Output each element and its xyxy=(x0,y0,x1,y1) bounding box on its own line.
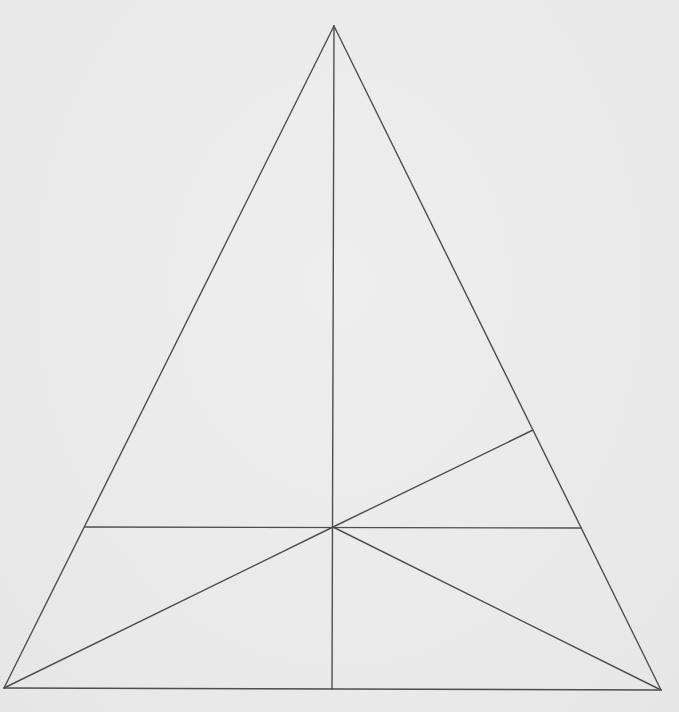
right-side-line xyxy=(334,26,661,690)
center-to-right-side-line xyxy=(333,430,533,527)
center-to-bottom-left-line xyxy=(4,527,333,688)
left-side-line xyxy=(4,26,334,688)
diagram-canvas xyxy=(0,0,679,712)
vertical-median-line xyxy=(332,26,334,689)
triangle-figure xyxy=(0,0,679,712)
center-to-bottom-right-line xyxy=(333,527,661,690)
